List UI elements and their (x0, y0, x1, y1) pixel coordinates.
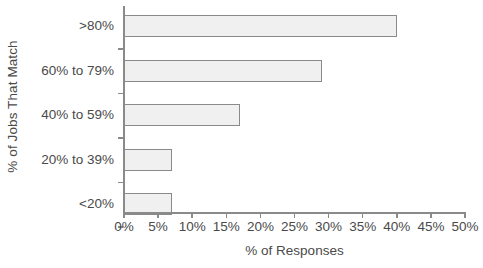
x-tick-mark-10 (464, 213, 466, 218)
plot-area (124, 8, 465, 212)
x-tick-label-10: 50% (451, 219, 478, 235)
x-tick-mark-2 (191, 213, 193, 218)
x-tick-mark-0 (123, 213, 125, 218)
x-tick-label-1: 5% (148, 219, 168, 235)
y-tick-label-1: 60% to 79% (22, 64, 114, 78)
x-tick-mark-3 (226, 213, 228, 218)
x-tick-mark-9 (430, 213, 432, 218)
bar-chart: % of Jobs That Match >80%60% to 79%40% t… (0, 0, 483, 268)
y-axis-spine (123, 6, 125, 214)
x-tick-mark-7 (362, 213, 364, 218)
x-tick-mark-5 (294, 213, 296, 218)
y-tick-label-4: <20% (22, 197, 114, 211)
x-tick-label-0: 0% (114, 219, 134, 235)
y-axis-tick-labels: >80%60% to 79%40% to 59%20% to 39%<20% (24, 8, 118, 212)
y-tick-mark-2 (118, 93, 123, 95)
y-tick-mark-1 (118, 48, 123, 50)
x-tick-label-7: 35% (349, 219, 376, 235)
y-tick-label-0: >80% (22, 19, 114, 33)
x-tick-label-6: 30% (315, 219, 342, 235)
x-tick-mark-6 (328, 213, 330, 218)
bar-3 (124, 149, 172, 171)
x-tick-label-4: 20% (247, 219, 274, 235)
y-tick-label-3: 20% to 39% (22, 153, 114, 167)
x-axis-title: % of Responses (124, 243, 465, 258)
bar-2 (124, 104, 240, 126)
x-tick-label-8: 40% (383, 219, 410, 235)
y-axis-title: % of Jobs That Match (0, 0, 24, 212)
x-tick-label-9: 45% (417, 219, 444, 235)
y-tick-label-2: 40% to 59% (22, 108, 114, 122)
bar-0 (124, 15, 397, 37)
y-axis-title-text: % of Jobs That Match (5, 40, 20, 172)
x-tick-label-3: 15% (213, 219, 240, 235)
x-tick-label-5: 25% (281, 219, 308, 235)
y-tick-mark-4 (118, 182, 123, 184)
x-tick-mark-4 (260, 213, 262, 218)
x-tick-label-2: 10% (179, 219, 206, 235)
bar-1 (124, 60, 322, 82)
x-tick-mark-8 (396, 213, 398, 218)
x-tick-mark-1 (157, 213, 159, 218)
y-tick-mark-3 (118, 137, 123, 139)
